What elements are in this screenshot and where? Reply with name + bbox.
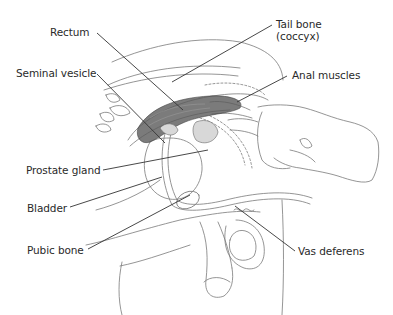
label-vas-deferens: Vas deferens: [298, 245, 364, 257]
label-pubic-bone: Pubic bone: [27, 244, 84, 256]
label-anal-muscles: Anal muscles: [292, 69, 360, 81]
label-tail-bone-sub: (coccyx): [276, 30, 322, 42]
label-rectum: Rectum: [50, 26, 89, 38]
label-tail-bone-main: Tail bone: [276, 18, 322, 30]
label-seminal-vesicle: Seminal vesicle: [16, 67, 96, 79]
label-prostate-gland: Prostate gland: [26, 164, 101, 176]
rectum-shading: [137, 96, 241, 143]
label-tail-bone: Tail bone (coccyx): [276, 18, 322, 42]
anatomy-illustration: [0, 0, 393, 315]
anatomy-diagram: Rectum Tail bone (coccyx) Seminal vesicl…: [0, 0, 393, 315]
label-bladder: Bladder: [27, 202, 67, 214]
